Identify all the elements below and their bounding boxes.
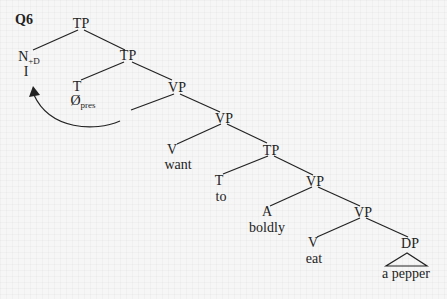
- node-boldly-word: boldly: [249, 221, 285, 235]
- node-tp-inner: TP: [120, 49, 136, 63]
- node-want-word: want: [164, 158, 191, 172]
- node-n: N+D: [18, 50, 40, 68]
- node-vp3: VP: [306, 175, 324, 189]
- node-n-word: I: [24, 65, 29, 79]
- node-vp2: VP: [215, 112, 233, 126]
- node-n-cat: N: [18, 49, 28, 64]
- node-v-want: V: [167, 143, 177, 157]
- node-to-word: to: [216, 190, 227, 204]
- node-tp2: TP: [263, 144, 279, 158]
- tree-edges: [0, 0, 447, 299]
- node-eat-word: eat: [306, 252, 322, 266]
- arrowhead-icon: [29, 86, 40, 97]
- node-dp: DP: [401, 237, 419, 251]
- node-tp-root: TP: [73, 17, 89, 31]
- node-n-feature: +D: [28, 56, 40, 66]
- node-t2: T: [215, 174, 224, 188]
- node-t: T: [73, 80, 82, 94]
- node-a: A: [262, 205, 272, 219]
- node-dp-word: a pepper: [382, 267, 430, 281]
- node-vp4: VP: [354, 206, 372, 220]
- node-t-null: Ø: [70, 93, 80, 108]
- question-label: Q6: [15, 12, 33, 28]
- node-t-sub: pres: [81, 100, 96, 110]
- node-t-word: Øpres: [70, 94, 95, 112]
- node-vp1: VP: [168, 81, 186, 95]
- node-v-eat: V: [308, 236, 318, 250]
